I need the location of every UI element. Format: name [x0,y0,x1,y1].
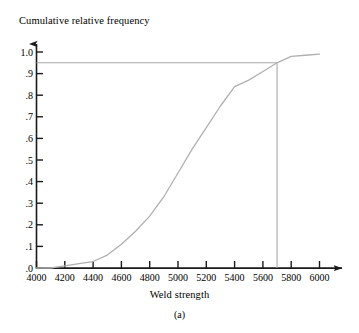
y-tick-label: .2 [26,219,34,230]
y-axis-tick-labels: .0 .1 .2 .3 .4 .5 .6 .7 .8 .9 1.0 [21,47,34,274]
y-tick-label: .9 [26,68,34,79]
x-tick-label: 4000 [27,272,47,283]
x-tick-label: 4200 [55,272,75,283]
x-tick-label: 5800 [281,272,301,283]
x-axis-tick-labels: 4000 4200 4400 4600 4800 5000 5200 5400 … [27,272,330,283]
y-tick-label: 1.0 [21,47,34,58]
y-tick-label: .1 [26,241,34,252]
figure-caption: (a) [0,309,359,320]
y-axis-ticks [37,52,44,268]
x-tick-label: 5400 [225,272,245,283]
y-tick-label: .3 [26,198,34,209]
x-tick-label: 4600 [111,272,131,283]
x-tick-label: 5200 [196,272,216,283]
chart-plot-area: .0 .1 .2 .3 .4 .5 .6 .7 .8 .9 1.0 [0,0,359,333]
x-axis-title: Weld strength [0,289,359,300]
y-tick-label: .7 [26,111,34,122]
x-tick-label: 5000 [168,272,188,283]
y-tick-label: .6 [26,133,34,144]
y-tick-label: .8 [26,90,34,101]
figure-container: Cumulative relative frequency [0,0,359,333]
y-tick-label: .5 [26,155,34,166]
x-tick-label: 4400 [83,272,103,283]
x-tick-label: 6000 [310,272,330,283]
x-tick-label: 4800 [140,272,160,283]
y-tick-label: .4 [26,176,34,187]
x-tick-label: 5600 [253,272,273,283]
